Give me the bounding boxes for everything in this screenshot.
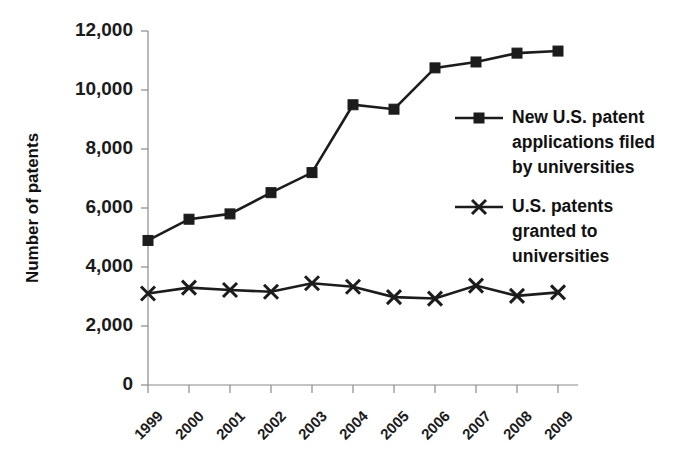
square-marker-icon (143, 235, 153, 245)
x-tick-label: 1999 (131, 407, 167, 443)
y-axis-title-label: Number of patents (23, 133, 42, 283)
legend-label-line: granted to (512, 221, 598, 241)
x-tick-label: 2000 (172, 407, 208, 443)
square-marker-icon (471, 57, 481, 67)
y-tick-label: 10,000 (75, 78, 133, 99)
square-marker-icon (184, 214, 194, 224)
legend-label-line: by universities (512, 157, 635, 177)
square-marker-icon (348, 100, 358, 110)
y-tick-label: 12,000 (75, 19, 133, 40)
x-tick-label: 2005 (377, 407, 413, 443)
x-tick-label: 2007 (459, 407, 495, 443)
square-marker-icon (266, 188, 276, 198)
legend-entry-1[interactable]: New U.S. patentapplications filedby univ… (455, 107, 655, 177)
y-tick-label: 2,000 (85, 314, 133, 335)
legend-label-line: applications filed (512, 132, 655, 152)
x-tick-label: 2001 (213, 407, 249, 443)
square-marker-icon (512, 48, 522, 58)
legend-label-line: New U.S. patent (512, 107, 644, 127)
x-tick-label: 2004 (336, 407, 372, 443)
x-tick-label: 2002 (254, 407, 290, 443)
square-marker-icon (225, 209, 235, 219)
data-series-group (141, 46, 565, 306)
y-axis-title: Number of patents (23, 133, 42, 283)
legend-entry-2[interactable]: U.S. patentsgranted touniversities (455, 196, 613, 266)
x-tick-label: 2009 (541, 407, 577, 443)
chart-legend: New U.S. patentapplications filedby univ… (455, 107, 655, 266)
y-tick-label: 8,000 (85, 137, 133, 158)
y-axis: 02,0004,0006,0008,00010,00012,000 (75, 19, 148, 394)
line-chart: Number of patents 02,0004,0006,0008,0001… (0, 0, 696, 472)
y-tick-label: 0 (122, 373, 133, 394)
legend-label-line: universities (512, 246, 610, 266)
square-marker-icon (389, 104, 399, 114)
x-tick-label: 2006 (418, 407, 454, 443)
y-tick-label: 6,000 (85, 196, 133, 217)
x-axis: 1999200020012002200320042005200620072008… (131, 385, 577, 443)
legend-label-line: U.S. patents (512, 196, 613, 216)
square-marker-icon (430, 63, 440, 73)
y-tick-label: 4,000 (85, 255, 133, 276)
square-marker-icon (307, 168, 317, 178)
series-line-1 (148, 51, 558, 240)
x-tick-label: 2008 (500, 407, 536, 443)
chart-container: Number of patents 02,0004,0006,0008,0001… (0, 0, 696, 472)
square-marker-icon (553, 46, 563, 56)
x-tick-label: 2003 (295, 407, 331, 443)
square-marker-icon (474, 113, 484, 123)
